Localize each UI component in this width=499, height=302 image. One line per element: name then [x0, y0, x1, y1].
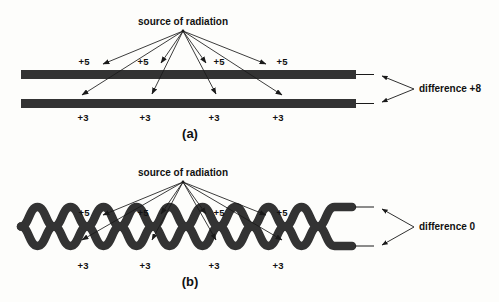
panel-a-upper-rays — [103, 31, 266, 64]
panel-b-lower-dose-2: +3 — [140, 261, 151, 271]
panel-a-upper-strand — [21, 70, 356, 79]
panel-a-source-label: source of radiation — [138, 17, 228, 27]
panel-b-lower-dose-4: +3 — [273, 261, 284, 271]
radiation-dose-figure: source of radiation +5 +5 +5 +5 +3 +3 +3… — [0, 0, 499, 302]
panel-b-strand-two — [21, 207, 352, 246]
panel-a-difference-label: difference +8 — [419, 84, 481, 94]
diagram-canvas — [0, 0, 499, 302]
panel-a-difference-arrows — [382, 76, 414, 102]
panel-a-upper-dose-3: +5 — [214, 57, 225, 67]
panel-b-upper-dose-2: +5 — [138, 208, 149, 218]
panel-a-lower-dose-2: +3 — [140, 113, 151, 123]
panel-b-difference-label: difference 0 — [419, 222, 475, 232]
panel-a-label: (a) — [182, 127, 198, 140]
panel-a-upper-dose-4: +5 — [277, 57, 288, 67]
panel-b-difference-arrows — [382, 209, 414, 245]
panel-b-lower-dose-3: +3 — [209, 261, 220, 271]
panel-b-upper-dose-1: +5 — [79, 208, 90, 218]
panel-b-source-point — [182, 181, 185, 184]
panel-b-leader-ticks — [355, 207, 374, 246]
panel-a-graphics — [21, 30, 414, 108]
panel-a-lower-dose-4: +3 — [273, 113, 284, 123]
panel-b-source-label: source of radiation — [138, 168, 228, 178]
panel-b-label: (b) — [182, 275, 199, 288]
panel-a-lower-rays — [82, 31, 282, 95]
panel-a-source-point — [182, 30, 185, 33]
panel-a-upper-dose-2: +5 — [138, 57, 149, 67]
panel-a-lower-strand — [21, 99, 356, 108]
panel-a-lower-dose-1: +3 — [78, 113, 89, 123]
panel-a-upper-dose-1: +5 — [79, 57, 90, 67]
panel-b-upper-dose-4: +5 — [277, 208, 288, 218]
panel-b-lower-dose-1: +3 — [78, 261, 89, 271]
panel-a-leader-ticks — [356, 75, 374, 104]
panel-b-upper-dose-3: +5 — [214, 208, 225, 218]
panel-a-lower-dose-3: +3 — [209, 113, 220, 123]
